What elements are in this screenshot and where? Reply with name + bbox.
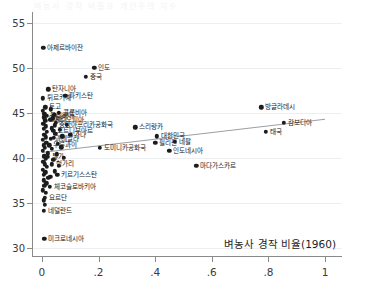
y-tick-mark — [27, 68, 32, 69]
data-point-label: 캄보디아 — [288, 119, 312, 126]
data-point-label: 키르기스스탄 — [61, 172, 97, 179]
data-point-label: 미크로네시아 — [48, 236, 84, 243]
y-tick-label: 50 — [12, 62, 25, 73]
scatter-plot-area: 아제르바이잔인도중국탄자니아튀르키예파키스탄토고콜롬비아볼리비아알제리대한민국필… — [32, 12, 342, 257]
data-point-label: 중국 — [90, 74, 102, 81]
x-tick-label: .2 — [94, 266, 104, 278]
data-point-label: 태국 — [270, 129, 282, 136]
x-tick-label: .4 — [150, 266, 160, 278]
y-tick-label: 45 — [12, 107, 25, 118]
x-axis-title: 벼농사 경작 비율(1960) — [224, 236, 336, 251]
y-tick-mark — [27, 158, 32, 159]
x-tick-label: 0 — [39, 266, 46, 278]
y-tick-mark — [27, 248, 32, 249]
y-tick-label: 40 — [12, 152, 25, 163]
x-tick-mark — [99, 257, 100, 262]
x-tick-mark — [42, 257, 43, 262]
data-point-label: 네팔 — [179, 138, 191, 145]
data-point-label: 인도네시아 — [173, 147, 203, 154]
x-tick-mark — [325, 257, 326, 262]
x-tick-mark — [268, 257, 269, 262]
x-tick-mark — [155, 257, 156, 262]
data-point-label: 튀르키예 — [47, 95, 71, 102]
data-point-label: 네덜란드 — [48, 208, 72, 215]
data-point-label: 아제르바이잔 — [47, 45, 83, 52]
chart-screenshot: 벼농사 경작 비율과 개인주의 지수 아제르바이잔인도중국탄자니아튀르키예파키스… — [0, 0, 378, 297]
data-point-label: 인도 — [98, 65, 110, 72]
y-tick-label: 30 — [12, 242, 25, 253]
x-tick-label: .8 — [263, 266, 273, 278]
data-point-label: 마다가스카르 — [200, 163, 236, 170]
data-point-label: 에티오피아 — [54, 117, 84, 124]
y-tick-label: 55 — [12, 17, 25, 28]
data-point-label: 방글라데시 — [265, 104, 295, 111]
data-point-label: 파키스탄 — [69, 92, 93, 99]
y-axis — [32, 12, 33, 257]
x-tick-mark — [212, 257, 213, 262]
y-tick-mark — [27, 23, 32, 24]
data-point-label: 요르단 — [49, 194, 67, 201]
data-point-label: 스리랑카 — [139, 124, 163, 131]
x-tick-label: .6 — [207, 266, 217, 278]
y-tick-label: 35 — [12, 197, 25, 208]
y-tick-mark — [27, 113, 32, 114]
x-axis — [32, 256, 342, 257]
data-point-label: 체코슬로바키아 — [54, 183, 96, 190]
x-tick-label: 1 — [322, 266, 329, 278]
y-tick-mark — [27, 203, 32, 204]
data-point-label: 도미니카공화국 — [104, 145, 146, 152]
chart-title: 벼농사 경작 비율과 개인주의 지수 — [34, 0, 178, 11]
